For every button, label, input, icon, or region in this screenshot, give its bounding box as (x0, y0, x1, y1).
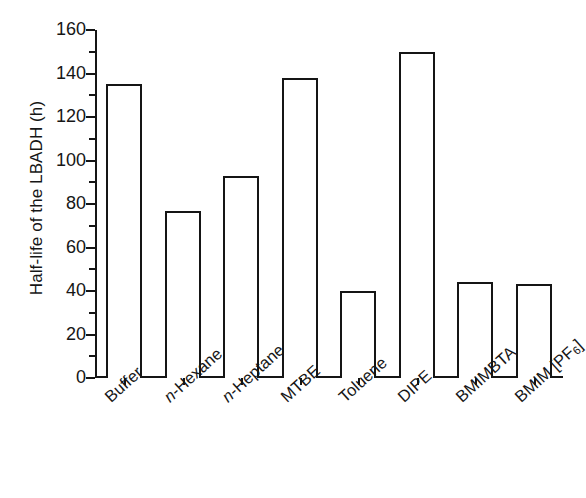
x-tick (183, 378, 185, 385)
x-tick (124, 378, 126, 385)
x-tick (417, 378, 419, 385)
bar (399, 52, 435, 378)
y-tick-label: 20 (40, 325, 86, 343)
y-tick-label: 120 (40, 107, 86, 125)
y-tick-major (86, 334, 95, 336)
bar (282, 78, 318, 378)
y-axis-tick-labels: 020406080100120140160 (40, 0, 86, 498)
y-tick-minor (89, 312, 95, 314)
x-tick (300, 378, 302, 385)
x-tick (475, 378, 477, 385)
y-tick-label: 40 (40, 281, 86, 299)
bar (165, 211, 201, 378)
y-tick-minor (89, 355, 95, 357)
bar (516, 284, 552, 378)
y-tick-minor (89, 94, 95, 96)
bar (106, 84, 142, 378)
y-tick-major (86, 290, 95, 292)
y-tick-major (86, 73, 95, 75)
y-axis-line (95, 30, 97, 378)
y-tick-major (86, 247, 95, 249)
y-tick-label: 100 (40, 151, 86, 169)
x-tick (241, 378, 243, 385)
y-tick-minor (89, 268, 95, 270)
y-tick-major (86, 116, 95, 118)
y-tick-minor (89, 51, 95, 53)
bar (457, 282, 493, 378)
y-tick-minor (89, 138, 95, 140)
y-tick-major (86, 160, 95, 162)
y-tick-label: 160 (40, 20, 86, 38)
x-tick (358, 378, 360, 385)
y-tick-minor (89, 181, 95, 183)
y-tick-label: 0 (40, 368, 86, 386)
y-tick-major (86, 203, 95, 205)
bar (340, 291, 376, 378)
y-tick-label: 80 (40, 194, 86, 212)
y-tick-label: 60 (40, 238, 86, 256)
y-tick-minor (89, 225, 95, 227)
bar (223, 176, 259, 378)
y-tick-major (86, 377, 95, 379)
x-tick (534, 378, 536, 385)
y-tick-label: 140 (40, 64, 86, 82)
plot-area (95, 30, 563, 378)
y-tick-major (86, 29, 95, 31)
